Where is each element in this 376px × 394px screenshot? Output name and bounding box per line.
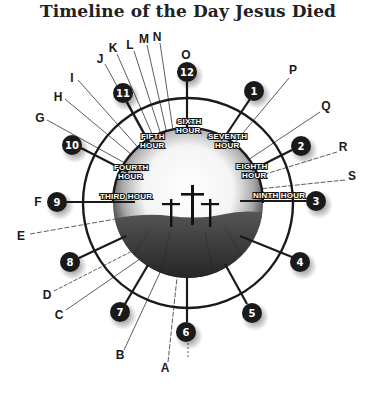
hour-label-sixth: SIXTH bbox=[177, 117, 202, 126]
hour-label-eighth-2: HOUR bbox=[242, 171, 266, 180]
hour-number: 3 bbox=[313, 196, 320, 207]
hour-label-seventh: SEVENTH bbox=[208, 132, 247, 141]
hour-number: 6 bbox=[183, 327, 190, 338]
letter-label-r: R bbox=[339, 140, 348, 154]
hour-label-fifth-2: HOUR bbox=[140, 141, 164, 150]
hour-marker-11: 11 bbox=[112, 83, 140, 111]
hour-label-fourth-2: HOUR bbox=[118, 172, 142, 181]
hour-number: 10 bbox=[65, 140, 79, 151]
letter-label-o: O bbox=[181, 48, 190, 62]
letter-label-d: D bbox=[43, 288, 52, 302]
letter-label-f: F bbox=[34, 195, 41, 209]
hour-marker-7: 7 bbox=[109, 302, 137, 330]
letter-label-n: N bbox=[153, 30, 162, 44]
letter-label-s: S bbox=[348, 169, 356, 183]
letter-label-m: M bbox=[139, 32, 149, 46]
letter-label-i: I bbox=[70, 71, 73, 85]
hour-label-eighth: EIGHTH bbox=[236, 162, 267, 171]
letter-label-k: K bbox=[109, 41, 118, 55]
hour-marker-2: 2 bbox=[290, 136, 318, 164]
hour-number: 7 bbox=[117, 307, 124, 318]
hour-marker-4: 4 bbox=[289, 252, 317, 280]
hour-label-seventh-2: HOUR bbox=[215, 141, 239, 150]
letter-label-a: A bbox=[161, 361, 170, 375]
hour-marker-9: 9 bbox=[46, 192, 74, 220]
timeline-diagram: THIRD HOUR FOURTH HOUR FIFTH HOUR SIXTH … bbox=[0, 0, 376, 394]
hour-marker-6: 6 bbox=[175, 322, 203, 350]
letter-label-q: Q bbox=[321, 99, 330, 113]
hour-marker-5: 5 bbox=[241, 303, 269, 331]
crucifixion-scene bbox=[100, 128, 280, 290]
hour-number: 2 bbox=[298, 141, 305, 152]
hour-label-fifth: FIFTH bbox=[141, 132, 165, 141]
hour-label-third: THIRD HOUR bbox=[100, 192, 152, 201]
hour-number: 4 bbox=[297, 257, 304, 268]
letter-label-j: J bbox=[97, 52, 104, 66]
hour-marker-1: 1 bbox=[243, 81, 271, 109]
hour-number: 5 bbox=[249, 308, 256, 319]
hour-number: 9 bbox=[54, 197, 61, 208]
hour-number: 11 bbox=[116, 88, 130, 99]
hour-number: 12 bbox=[180, 67, 194, 78]
letter-label-h: H bbox=[54, 90, 63, 104]
hour-label-ninth: NINTH HOUR bbox=[253, 191, 305, 200]
letter-label-g: G bbox=[35, 111, 44, 125]
hour-label-sixth-2: HOUR bbox=[176, 126, 200, 135]
letter-label-e: E bbox=[17, 229, 25, 243]
hour-marker-3: 3 bbox=[305, 191, 333, 219]
letter-label-p: P bbox=[289, 63, 297, 77]
letter-label-l: L bbox=[126, 38, 133, 52]
hour-marker-12: 12 bbox=[176, 62, 204, 90]
letter-label-b: B bbox=[116, 348, 125, 362]
hour-label-fourth: FOURTH bbox=[114, 163, 149, 172]
hour-marker-8: 8 bbox=[59, 252, 87, 280]
hour-marker-10: 10 bbox=[61, 135, 89, 163]
hour-number: 1 bbox=[251, 86, 258, 97]
hour-number: 8 bbox=[67, 257, 74, 268]
letter-label-c: C bbox=[55, 308, 64, 322]
